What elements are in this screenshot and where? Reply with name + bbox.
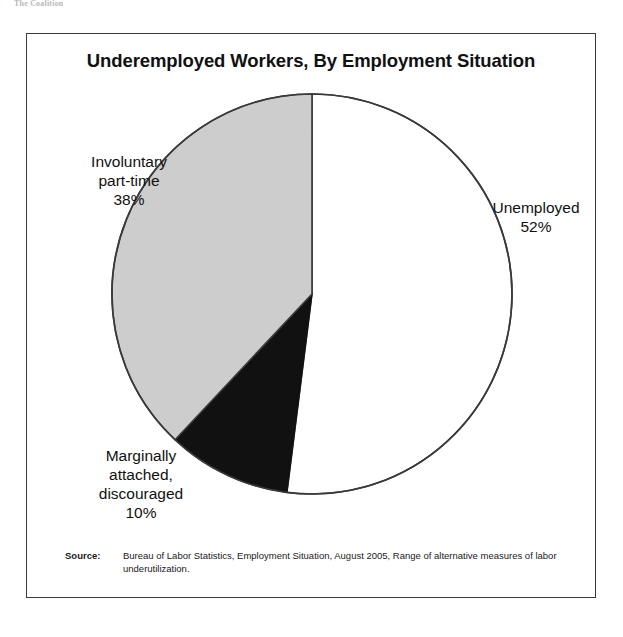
source-note: Source: Bureau of Labor Statistics, Empl… [65,550,565,575]
source-note-label: Source: [65,550,100,563]
source-note-text: Bureau of Labor Statistics, Employment S… [123,550,565,575]
pie-label-involuntary-part-time: Involuntary part-time 38% [49,152,209,209]
pie-label-marginally-attached: Marginally attached, discouraged 10% [61,446,221,522]
pie-label-unemployed-value: 52% [471,217,601,236]
pie-label-involuntary-value: 38% [49,190,209,209]
page-running-header: The Coalition [14,0,92,8]
figure-frame: Underemployed Workers, By Employment Sit… [26,33,596,598]
pie-label-marginally-value: 10% [61,503,221,522]
pie-label-marginally-line3: discouraged [99,485,183,502]
pie-label-marginally-line1: Marginally [106,447,177,464]
pie-label-unemployed: Unemployed 52% [471,198,601,236]
pie-label-involuntary-line2: part-time [98,172,159,189]
pie-slice-unemployed[interactable] [287,94,512,494]
pie-label-marginally-line2: attached, [109,466,173,483]
pie-chart-area: Involuntary part-time 38% Unemployed 52%… [27,34,597,554]
pie-label-involuntary-line1: Involuntary [91,153,167,170]
pie-label-unemployed-line1: Unemployed [492,199,579,216]
